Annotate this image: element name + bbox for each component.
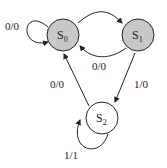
edge-s1-s0 — [80, 46, 126, 57]
edge-s1-s2 — [115, 53, 135, 102]
state-s1-label: S1 — [132, 29, 143, 44]
edge-label-s1-s0: 0/0 — [92, 61, 106, 72]
state-diagram: S0 S1 S2 0/0 0/0 0/0 1/0 1/1 — [0, 0, 167, 168]
edge-s0-s1 — [78, 12, 122, 23]
state-s0-label: S0 — [57, 29, 68, 44]
state-s2-label: S2 — [96, 112, 107, 127]
edge-label-s0-self: 0/0 — [5, 21, 19, 32]
edge-s2-s0 — [64, 54, 89, 106]
edge-label-s1-s2: 1/0 — [134, 79, 148, 90]
edge-label-s2-s0: 0/0 — [50, 79, 64, 90]
edge-label-s2-self: 1/1 — [64, 150, 78, 161]
edge-s0-self — [27, 21, 48, 43]
